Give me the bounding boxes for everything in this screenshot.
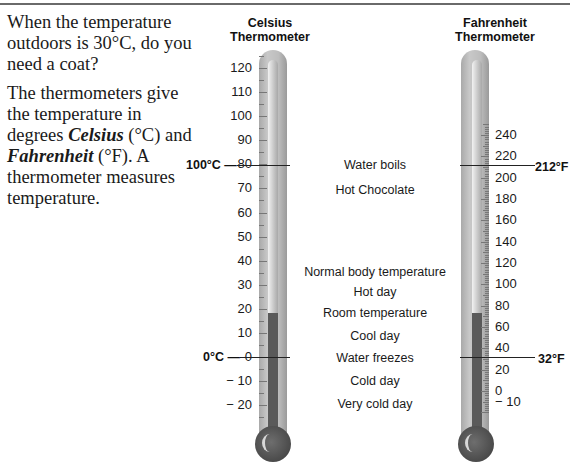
fahrenheit-tick <box>485 293 489 294</box>
fahrenheit-tick <box>485 361 489 362</box>
celsius-scale-label: 120 <box>218 61 252 75</box>
fahrenheit-tick <box>485 334 489 335</box>
celsius-tick <box>259 273 264 274</box>
fahrenheit-tick <box>485 195 489 196</box>
fahrenheit-tick <box>485 152 489 153</box>
note-very-cold-day: Very cold day <box>290 397 460 411</box>
fahrenheit-tick <box>485 351 489 352</box>
fahrenheit-scale-label: 60 <box>495 320 509 334</box>
fahrenheit-tick <box>483 316 489 317</box>
celsius-tick <box>259 237 267 238</box>
fahrenheit-tick <box>485 312 489 313</box>
celsius-tick <box>259 381 267 382</box>
fahrenheit-tick <box>485 212 489 213</box>
fahrenheit-tick <box>485 353 489 354</box>
fahrenheit-tick <box>483 252 489 253</box>
fahrenheit-tick <box>485 302 489 303</box>
fahrenheit-tick <box>485 346 489 347</box>
note-water-boils: Water boils <box>290 158 460 172</box>
fahrenheit-tick <box>485 276 489 277</box>
fahrenheit-scale-label: 40 <box>495 341 509 355</box>
fahrenheit-tick <box>481 242 489 243</box>
fahrenheit-tick <box>481 199 489 200</box>
celsius-tick <box>259 369 264 370</box>
fahrenheit-tick <box>481 348 489 349</box>
fahrenheit-tick <box>485 238 489 239</box>
fahrenheit-tick <box>483 295 489 296</box>
fahrenheit-tick <box>485 297 489 298</box>
fahrenheit-tick <box>485 366 489 367</box>
fahrenheit-tick <box>483 338 489 339</box>
fahrenheit-tick <box>485 246 489 247</box>
celsius-scale-label: 70 <box>218 181 252 195</box>
fahrenheit-tick <box>485 214 489 215</box>
fahrenheit-tick <box>485 304 489 305</box>
fahrenheit-tick <box>483 167 489 168</box>
fahrenheit-tick <box>483 231 489 232</box>
celsius-tick <box>259 285 267 286</box>
fahrenheit-tick <box>485 174 489 175</box>
fahrenheit-term: Fahrenheit <box>7 146 93 166</box>
fahrenheit-tick <box>481 263 489 264</box>
fahrenheit-tick <box>485 406 489 407</box>
fahrenheit-tick <box>485 410 489 411</box>
celsius-tick <box>259 152 264 153</box>
fahrenheit-tick <box>485 287 489 288</box>
fahrenheit-tick <box>481 306 489 307</box>
note-hot-chocolate: Hot Chocolate <box>290 183 460 197</box>
fahrenheit-tick <box>485 267 489 268</box>
fahrenheit-tick <box>485 374 489 375</box>
fahrenheit-tick <box>485 191 489 192</box>
fahrenheit-tick <box>485 203 489 204</box>
fahrenheit-tick <box>485 393 489 394</box>
fahrenheit-tick <box>483 146 489 147</box>
top-rule <box>0 3 570 5</box>
celsius-freeze-mark: 0°C — <box>203 350 240 364</box>
celsius-tick <box>259 68 267 69</box>
fahrenheit-tick <box>485 244 489 245</box>
fahrenheit-tick <box>481 220 489 221</box>
fahrenheit-scale-label: 100 <box>495 277 517 291</box>
fahrenheit-tick <box>485 272 489 273</box>
note-body-temp: Normal body temperature <box>290 265 460 279</box>
fahrenheit-tick <box>483 380 489 381</box>
fahrenheit-tick <box>485 248 489 249</box>
celsius-tick <box>259 128 264 129</box>
fahrenheit-tick <box>485 233 489 234</box>
celsius-scale-label: 30 <box>218 278 252 292</box>
fahrenheit-tick <box>485 278 489 279</box>
fahrenheit-tick <box>485 387 489 388</box>
fahrenheit-tick <box>485 308 489 309</box>
fahrenheit-tick <box>481 370 489 371</box>
fahrenheit-freeze-mark: 32°F <box>538 352 565 366</box>
fahrenheit-tick <box>481 412 489 413</box>
fahrenheit-tick <box>485 376 489 377</box>
note-cold-day: Cold day <box>290 374 460 388</box>
fahrenheit-tick <box>485 265 489 266</box>
fahrenheit-tick <box>485 186 489 187</box>
fahrenheit-tick <box>483 402 489 403</box>
fahrenheit-scale-label: 80 <box>495 299 509 313</box>
celsius-scale-label: − 10 <box>218 374 252 388</box>
fahrenheit-tick <box>485 289 489 290</box>
fahrenheit-tick <box>485 129 489 130</box>
fahrenheit-tick <box>483 274 489 275</box>
fahrenheit-tick <box>485 218 489 219</box>
fahrenheit-tick <box>485 131 489 132</box>
celsius-term: Celsius <box>68 125 124 145</box>
fahrenheit-tick <box>485 389 489 390</box>
celsius-tick <box>259 56 264 57</box>
celsius-scale-label: 60 <box>218 206 252 220</box>
fahrenheit-tick <box>485 197 489 198</box>
fahrenheit-scale-label: 140 <box>495 235 517 249</box>
celsius-bulb-glint <box>262 434 277 452</box>
celsius-tick <box>259 176 264 177</box>
note-water-freezes: Water freezes <box>290 351 460 365</box>
fahrenheit-tick <box>485 329 489 330</box>
fahrenheit-tick <box>485 368 489 369</box>
fahrenheit-tick <box>481 284 489 285</box>
celsius-tick <box>259 393 264 394</box>
fahrenheit-scale-label: 180 <box>495 192 517 206</box>
celsius-tick <box>259 333 267 334</box>
fahrenheit-bulb-glint <box>465 434 480 452</box>
